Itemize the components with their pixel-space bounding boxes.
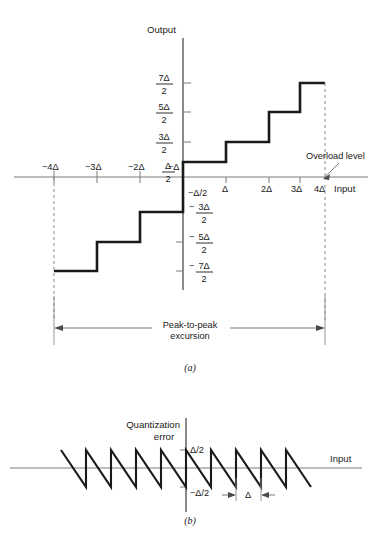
panel-b-x-axis-label: Input	[330, 453, 352, 464]
panel-a-y-ticks-positive	[183, 83, 191, 142]
frac-denominator: 2	[161, 86, 166, 96]
x-tick-label-neg3delta: −3Δ	[85, 162, 102, 172]
frac-denominator: 2	[201, 274, 206, 284]
excursion-arrowhead-left	[54, 325, 63, 331]
frac-denominator: 2	[201, 245, 206, 255]
x-tick-label-3delta: 3Δ	[291, 184, 302, 194]
frac-denominator: 2	[161, 115, 166, 125]
y-tick-label-neg-7delta-over-2: − 7Δ 2	[189, 261, 213, 284]
excursion-label-line2: excursion	[170, 331, 209, 341]
panel-b-y-axis-label-line1: Quantization	[126, 419, 180, 430]
frac-denominator: 2	[161, 145, 166, 155]
x-tick-label-delta: Δ	[222, 184, 228, 194]
frac-sign: −	[189, 261, 194, 271]
y-tick-label-neg-3delta-over-2: − 3Δ 2	[189, 202, 213, 225]
y-tick-label-neg-delta-over-2: −Δ/2	[188, 188, 207, 198]
excursion-arrowhead-right	[316, 325, 325, 331]
panel-b: Quantization error Input Δ/2 −Δ/2 Δ (b)	[10, 418, 362, 527]
frac-numerator: 5Δ	[158, 102, 169, 112]
panel-a-caption: (a)	[184, 362, 196, 374]
frac-sign: −	[189, 232, 194, 242]
quantization-error-sawtooth	[61, 450, 311, 487]
frac-numerator: 5Δ	[198, 232, 209, 242]
x-tick-label-neg4delta: −4Δ	[42, 162, 59, 172]
delta-spacing-label: Δ	[245, 490, 251, 500]
frac-numerator: 3Δ	[198, 202, 209, 212]
panel-a-y-ticks-negative	[176, 212, 183, 271]
y-tick-label-7delta-over-2: 7Δ 2	[156, 73, 173, 96]
panel-b-label-neg-half: −Δ/2	[190, 488, 209, 498]
delta-arrowhead-right	[261, 492, 269, 498]
x-tick-label-2delta: 2Δ	[261, 184, 272, 194]
x-tick-label-neg2delta: −2Δ	[128, 162, 145, 172]
panel-b-y-axis-label-line2: error	[154, 431, 175, 442]
frac-numerator: 7Δ	[158, 73, 169, 83]
frac-sign: −	[189, 202, 194, 212]
frac-numerator: 3Δ	[158, 132, 169, 142]
panel-b-label-pos-half: Δ/2	[190, 445, 204, 455]
y-tick-label-3delta-over-2: 3Δ 2	[156, 132, 173, 155]
frac-numerator: 7Δ	[198, 261, 209, 271]
panel-a-x-axis-label: Input	[334, 183, 356, 194]
overload-level-leader	[324, 163, 339, 178]
y-tick-label-neg-5delta-over-2: − 5Δ 2	[189, 232, 213, 255]
frac-denominator: 2	[165, 174, 170, 184]
y-tick-label-5delta-over-2: 5Δ 2	[156, 102, 173, 125]
panel-a: −4Δ −3Δ −2Δ −Δ Δ 2Δ 3Δ 4Δ Input Output 7…	[14, 24, 368, 374]
panel-a-y-axis-label: Output	[147, 24, 176, 35]
delta-arrowhead-left	[228, 492, 236, 498]
frac-numerator: Δ	[165, 161, 171, 171]
x-tick-label-4delta: 4Δ	[314, 184, 325, 194]
quantizer-figure: −4Δ −3Δ −2Δ −Δ Δ 2Δ 3Δ 4Δ Input Output 7…	[0, 0, 381, 535]
panel-b-caption: (b)	[184, 515, 196, 527]
panel-a-x-ticks	[54, 177, 300, 183]
excursion-label-line1: Peak-to-peak	[163, 320, 218, 330]
frac-denominator: 2	[201, 215, 206, 225]
overload-level-label: Overload level	[306, 151, 365, 161]
